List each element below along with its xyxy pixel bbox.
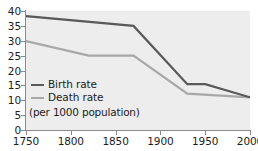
death-rate-label: Death rate [48, 91, 103, 104]
y-tick-label: 5 [1, 110, 21, 120]
x-tick-label: 1900 [140, 136, 180, 147]
y-tick-mark [21, 115, 26, 116]
y-tick-label: 0 [1, 125, 21, 135]
y-tick-label: 40 [1, 6, 21, 16]
death-rate-swatch [31, 97, 44, 99]
x-tick-label: 1750 [6, 136, 46, 147]
x-tick-label: 2000 [230, 136, 258, 147]
y-tick-mark [21, 41, 26, 42]
birth-rate-label: Birth rate [48, 78, 97, 91]
y-tick-label: 25 [1, 51, 21, 61]
y-tick-mark [21, 71, 26, 72]
x-tick-label: 1800 [51, 136, 91, 147]
y-tick-label: 15 [1, 80, 21, 90]
legend-item-birth-rate: Birth rate [31, 78, 142, 91]
y-tick-label: 30 [1, 36, 21, 46]
y-tick-mark [21, 11, 26, 12]
y-tick-label: 35 [1, 21, 21, 31]
birth-rate-swatch [31, 84, 44, 86]
demographic-transition-chart: 0510152025303540 17501800185019001950200… [0, 0, 258, 151]
x-axis-line [25, 130, 251, 131]
y-tick-label: 10 [1, 95, 21, 105]
y-tick-label: 20 [1, 66, 21, 76]
x-tick-label: 1850 [96, 136, 136, 147]
chart-legend: Birth rate Death rate (per 1000 populati… [31, 78, 142, 119]
legend-item-death-rate: Death rate [31, 91, 142, 104]
y-tick-mark [21, 85, 26, 86]
legend-units-note: (per 1000 population) [29, 106, 140, 119]
y-tick-mark [21, 56, 26, 57]
y-tick-mark [21, 26, 26, 27]
y-tick-mark [21, 100, 26, 101]
x-tick-label: 1950 [185, 136, 225, 147]
